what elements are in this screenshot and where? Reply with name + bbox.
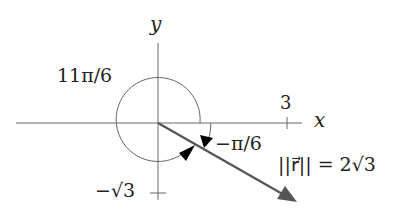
polar-diagram — [0, 0, 406, 219]
x-tick-label: 3 — [280, 94, 291, 112]
vector-arrowhead — [277, 186, 297, 202]
y-axis-label: y — [150, 14, 161, 34]
reflex-angle-arrowhead — [179, 145, 195, 161]
reflex-angle-label: 11π/6 — [57, 66, 112, 85]
magnitude-label: ||r⃗|| = 2√3 — [278, 155, 376, 174]
y-tick-label: −√3 — [95, 181, 135, 200]
negative-angle-label: −π/6 — [215, 134, 262, 153]
x-axis-label: x — [314, 110, 325, 130]
